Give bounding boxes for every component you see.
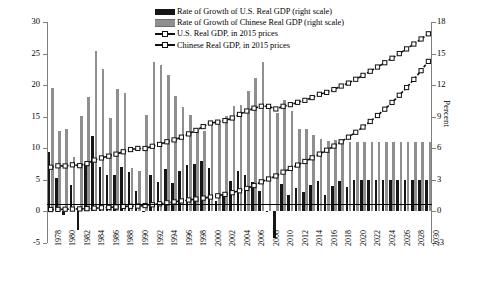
marker-us-gdp [70,163,74,167]
marker-us-gdp [150,144,154,148]
marker-china-gdp [85,207,89,211]
marker-china-gdp [107,205,111,209]
black-bar-swatch-icon [155,9,175,15]
right-tick [432,180,436,181]
marker-us-gdp [259,104,263,108]
marker-china-gdp [390,100,394,104]
marker-us-gdp [303,98,307,102]
marker-china-gdp [114,205,118,209]
x-tick-label: 2020 [359,230,368,246]
marker-china-gdp [383,107,387,111]
marker-us-gdp [78,164,82,168]
right-tick [432,148,436,149]
marker-china-gdp [332,144,336,148]
zero-baseline [47,204,432,205]
marker-china-gdp [245,186,249,190]
marker-us-gdp [252,106,256,110]
x-tick-label: 2022 [373,230,382,246]
right-tick-label: 15 [437,49,467,57]
marker-china-gdp [317,152,321,156]
marker-us-gdp [404,47,408,51]
marker-us-gdp [310,95,314,99]
marker-us-gdp [230,116,234,120]
marker-china-gdp [230,191,234,195]
left-tick-label: 10 [10,143,40,151]
right-tick-label: 9 [437,112,467,120]
marker-china-gdp [288,166,292,170]
marker-china-gdp [346,135,350,139]
marker-china-gdp [296,163,300,167]
marker-us-gdp [216,120,220,124]
line-us-gdp [51,34,429,167]
marker-china-gdp [99,206,103,210]
marker-china-gdp [426,59,430,63]
marker-china-gdp [216,194,220,198]
marker-us-gdp [208,121,212,125]
marker-china-gdp [266,177,270,181]
chart-root: Rate of Growth of U.S. Real GDP (right s… [0,0,481,297]
x-tick-label: 1994 [170,230,179,246]
x-tick-label: 1990 [141,230,150,246]
left-tick-label: 30 [10,17,40,25]
marker-us-gdp [426,32,430,36]
marker-china-gdp [208,195,212,199]
marker-us-gdp [332,87,336,91]
x-tick-label: 2016 [330,230,339,246]
marker-china-gdp [412,77,416,81]
marker-china-gdp [303,159,307,163]
marker-us-gdp [92,158,96,162]
left-tick-label: 25 [10,49,40,57]
marker-us-gdp [143,146,147,150]
marker-china-gdp [375,113,379,117]
x-tick-label: 2000 [214,230,223,246]
marker-us-gdp [179,135,183,139]
marker-us-gdp [383,61,387,65]
right-tick-label: 6 [437,143,467,151]
x-tick-label: 2028 [417,230,426,246]
x-tick-label: 2026 [403,230,412,246]
marker-china-gdp [223,192,227,196]
marker-china-gdp [368,119,372,123]
right-tick-label: 3 [437,175,467,183]
x-tick-label: 2012 [301,230,310,246]
marker-us-gdp [194,128,198,132]
marker-china-gdp [404,85,408,89]
marker-china-gdp [339,140,343,144]
marker-us-gdp [114,152,118,156]
plot-area: 302520151050-5 1815129630-3 197819801982… [47,22,432,243]
x-tick-label: 1980 [68,230,77,246]
x-tick-label: 2018 [344,230,353,246]
marker-china-gdp [310,156,314,160]
marker-us-gdp [136,146,140,150]
marker-china-gdp [274,174,278,178]
x-tick-label: 1984 [97,230,106,246]
marker-china-gdp [194,197,198,201]
marker-us-gdp [368,69,372,73]
left-tick [43,243,47,244]
marker-us-gdp [157,142,161,146]
marker-us-gdp [317,92,321,96]
marker-us-gdp [354,77,358,81]
marker-us-gdp [237,112,241,116]
x-tick-label: 1988 [126,230,135,246]
right-tick [432,85,436,86]
marker-china-gdp [259,180,263,184]
marker-china-gdp [201,196,205,200]
left-tick-label: 5 [10,175,40,183]
x-tick-label: 2004 [243,230,252,246]
marker-us-gdp [172,138,176,142]
right-tick [432,54,436,55]
marker-china-gdp [92,206,96,210]
marker-us-gdp [339,84,343,88]
marker-us-gdp [419,37,423,41]
marker-china-gdp [187,198,191,202]
marker-us-gdp [128,147,132,151]
marker-china-gdp [354,130,358,134]
marker-us-gdp [49,165,53,169]
marker-us-gdp [390,56,394,60]
marker-us-gdp [121,150,125,154]
x-tick-label: 2030 [432,230,441,246]
legend-item-us-growth: Rate of Growth of U.S. Real GDP (right s… [155,6,344,17]
marker-us-gdp [56,164,60,168]
left-tick-label: 0 [10,206,40,214]
